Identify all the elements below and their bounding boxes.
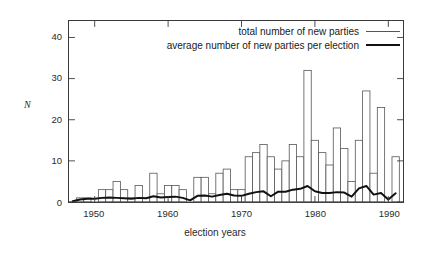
- bar: [326, 165, 333, 202]
- bar: [333, 128, 340, 202]
- chart-figure: N 010203040 19501960197019801990 electio…: [0, 0, 430, 257]
- bar: [120, 190, 127, 202]
- bar: [179, 190, 186, 202]
- bar: [377, 107, 384, 202]
- y-tick-label: 40: [51, 32, 62, 42]
- x-tick-label: 1960: [157, 209, 178, 219]
- bar: [319, 153, 326, 202]
- x-tick-label: 1970: [231, 209, 252, 219]
- bar: [172, 186, 179, 202]
- chart-legend: total number of new parties average numb…: [150, 24, 400, 52]
- legend-item-total: total number of new parties: [150, 24, 400, 38]
- legend-swatch-thick-line-icon: [366, 44, 400, 46]
- bar: [201, 177, 208, 202]
- y-tick-label: 10: [51, 157, 62, 167]
- bar-series-total-new-parties: [76, 70, 399, 202]
- legend-swatch-thin-line-icon: [366, 31, 400, 32]
- y-tick-label: 20: [51, 115, 62, 125]
- bar: [289, 144, 296, 202]
- bar: [223, 169, 230, 202]
- bar: [216, 173, 223, 202]
- y-axis-title: N: [24, 99, 31, 110]
- x-tick-label: 1950: [83, 209, 104, 219]
- y-tick-label: 0: [57, 198, 62, 208]
- bar: [282, 161, 289, 202]
- bar: [348, 181, 355, 202]
- x-tick-label: 1990: [379, 209, 400, 219]
- bar: [98, 190, 105, 202]
- bar: [253, 153, 260, 202]
- x-axis-tick-labels: 19501960197019801990: [0, 209, 430, 223]
- bar: [304, 70, 311, 202]
- legend-label-average: average number of new parties per electi…: [167, 40, 359, 51]
- legend-item-average: average number of new parties per electi…: [150, 38, 400, 52]
- bar: [208, 194, 215, 202]
- bar: [135, 186, 142, 202]
- x-axis-title: election years: [0, 227, 430, 238]
- y-tick-label: 30: [51, 73, 62, 83]
- bar: [106, 190, 113, 202]
- bar: [275, 169, 282, 202]
- bar: [370, 173, 377, 202]
- legend-label-total: total number of new parties: [238, 26, 359, 37]
- bar: [297, 157, 304, 202]
- x-tick-label: 1980: [305, 209, 326, 219]
